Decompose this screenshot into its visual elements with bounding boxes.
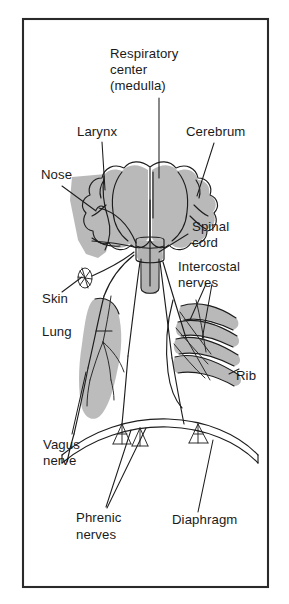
figure-canvas: Respiratory center (medulla) Larynx Cere… — [0, 0, 289, 604]
respiratory-control-figure: Respiratory center (medulla) Larynx Cere… — [0, 0, 289, 604]
label-lung: Lung — [42, 324, 72, 339]
label-skin: Skin — [42, 291, 68, 306]
label-larynx: Larynx — [77, 124, 117, 139]
label-rib: Rib — [236, 368, 256, 383]
label-cerebrum: Cerebrum — [186, 124, 245, 139]
label-diaphragm: Diaphragm — [172, 512, 237, 527]
label-nose: Nose — [41, 167, 72, 182]
